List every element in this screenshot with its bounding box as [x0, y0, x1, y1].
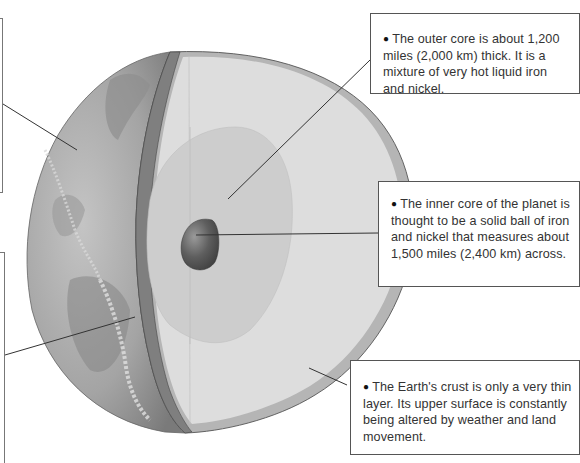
callout-crust-text: The Earth's crust is only a very thin la… [363, 380, 571, 444]
callout-inner-core: ●The inner core of the planet is thought… [378, 181, 580, 287]
left-callout-frame-lower [0, 252, 5, 463]
bullet-icon: ● [383, 33, 389, 44]
bullet-icon: ● [391, 198, 397, 209]
callout-inner-core-text: The inner core of the planet is thought … [391, 197, 570, 261]
bullet-icon: ● [363, 381, 369, 392]
left-callout-frame-upper [0, 18, 3, 193]
callout-crust: ●The Earth's crust is only a very thin l… [350, 360, 580, 455]
callout-outer-core: ●The outer core is about 1,200 miles (2,… [370, 13, 580, 94]
callout-outer-core-text: The outer core is about 1,200 miles (2,0… [383, 32, 560, 96]
